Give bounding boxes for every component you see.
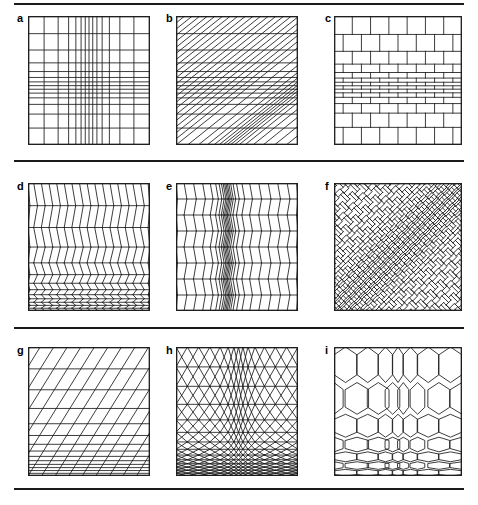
panel-g bbox=[28, 347, 150, 476]
panel-label-b: b bbox=[166, 13, 173, 24]
panel-d bbox=[28, 183, 150, 311]
panel-f bbox=[334, 183, 462, 311]
row2-row3-rule bbox=[14, 327, 464, 329]
panel-label-c: c bbox=[325, 13, 331, 24]
panel-h bbox=[176, 347, 298, 476]
panel-label-i: i bbox=[325, 345, 328, 356]
panel-i bbox=[334, 347, 462, 476]
panel-label-f: f bbox=[325, 181, 329, 192]
row1-row2-rule bbox=[14, 160, 464, 162]
panel-e bbox=[176, 183, 298, 311]
top-rule bbox=[14, 3, 464, 5]
panel-label-h: h bbox=[166, 345, 173, 356]
panel-label-e: e bbox=[166, 181, 172, 192]
panel-a bbox=[28, 16, 150, 145]
bottom-rule bbox=[14, 488, 464, 490]
panel-label-a: a bbox=[17, 13, 23, 24]
panel-label-d: d bbox=[17, 181, 24, 192]
panel-label-g: g bbox=[17, 345, 24, 356]
panel-b bbox=[176, 16, 298, 145]
tessellation-figure: abcdefghi bbox=[0, 0, 478, 505]
panel-c bbox=[334, 16, 462, 145]
